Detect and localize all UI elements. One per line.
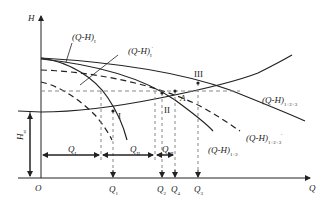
- label-QH-I-prime: (Q-H)I′: [128, 46, 153, 58]
- curve-QH-12: [41, 59, 213, 131]
- point-label-II: II: [164, 106, 170, 115]
- point-label-A: A: [180, 94, 186, 103]
- point-III: [196, 81, 199, 84]
- curve-QH-123-prime: [41, 70, 240, 131]
- tick-Q2: Q2: [157, 185, 166, 196]
- dim-Q-II: QII: [130, 145, 140, 156]
- label-QH-123-prime: (Q-H)1+2+3′: [246, 133, 282, 145]
- curve-QH-123: [41, 58, 305, 121]
- label-QH-I: (Q-H)I: [72, 33, 96, 44]
- tick-Q4: Q4: [171, 185, 180, 196]
- point-label-I: I: [118, 112, 121, 121]
- x-axis-label: Q: [309, 184, 316, 193]
- point-I: [111, 109, 114, 112]
- point-label-III: III: [194, 70, 203, 79]
- label-QH-123: (Q-H)1+2+3: [262, 96, 297, 107]
- point-II: [160, 91, 163, 94]
- tick-Q3: Q3: [194, 185, 203, 196]
- dim-H-static: Hst: [16, 130, 27, 140]
- label-QH-12: (Q-H)1+2: [208, 146, 238, 157]
- point-A: [173, 89, 176, 92]
- dim-Q-III: QIII: [162, 145, 174, 156]
- origin-label: O: [35, 184, 42, 193]
- tick-Q1: Q1: [109, 185, 118, 196]
- y-axis-label: H: [28, 14, 35, 23]
- dim-Q-I: QI: [68, 145, 76, 156]
